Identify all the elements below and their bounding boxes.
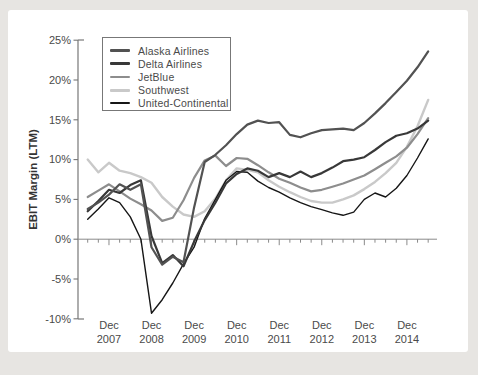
y-tick-label: -5% <box>51 273 71 285</box>
y-tick-label: 25% <box>49 34 71 46</box>
y-tick-label: 10% <box>49 153 71 165</box>
legend-item-alaska-airlines: Alaska Airlines <box>110 44 226 57</box>
x-tick-label-month: Dec <box>142 319 162 331</box>
y-tick-label: 20% <box>49 74 71 86</box>
legend-swatch <box>110 89 130 92</box>
x-tick-label-year: 2014 <box>395 333 419 345</box>
ebit-margin-line-chart: 25%20%15%10%5%0%-5%-10%Dec2007Dec2008Dec… <box>0 0 478 375</box>
x-tick-label-year: 2011 <box>267 333 291 345</box>
x-tick-label-year: 2013 <box>352 333 376 345</box>
figure-page: 25%20%15%10%5%0%-5%-10%Dec2007Dec2008Dec… <box>0 0 478 375</box>
series-line-jetblue <box>88 118 429 221</box>
x-tick-label-month: Dec <box>184 319 204 331</box>
x-tick-label-month: Dec <box>269 319 289 331</box>
legend-swatch <box>110 76 130 79</box>
legend-label: United-Continental <box>138 97 229 109</box>
x-tick-label-month: Dec <box>397 319 417 331</box>
legend-label: Delta Airlines <box>138 58 202 70</box>
x-tick-label-year: 2010 <box>224 333 248 345</box>
legend-item-jetblue: JetBlue <box>110 70 226 83</box>
y-tick-label: -10% <box>45 313 71 325</box>
y-tick-label: 5% <box>55 193 71 205</box>
legend-swatch <box>110 62 130 65</box>
legend-swatch <box>110 102 130 104</box>
x-tick-label-year: 2009 <box>182 333 206 345</box>
legend-label: JetBlue <box>138 71 174 83</box>
x-tick-label-year: 2012 <box>310 333 334 345</box>
y-axis-title: EBIT Margin (LTM) <box>27 129 39 230</box>
x-tick-label-month: Dec <box>312 319 332 331</box>
legend-item-southwest: Southwest <box>110 84 226 97</box>
x-tick-label-month: Dec <box>99 319 119 331</box>
x-tick-label-year: 2007 <box>97 333 121 345</box>
legend-label: Southwest <box>138 84 189 96</box>
legend-label: Alaska Airlines <box>138 45 209 57</box>
x-tick-label-month: Dec <box>355 319 375 331</box>
y-tick-label: 0% <box>55 233 71 245</box>
legend-swatch <box>110 49 130 52</box>
x-tick-label-year: 2008 <box>139 333 163 345</box>
series-line-southwest <box>88 100 429 217</box>
legend-item-delta-airlines: Delta Airlines <box>110 57 226 70</box>
y-tick-label: 15% <box>49 114 71 126</box>
chart-legend: Alaska AirlinesDelta AirlinesJetBlueSout… <box>102 37 231 111</box>
legend-item-united-continental: United-Continental <box>110 97 226 110</box>
x-tick-label-month: Dec <box>227 319 247 331</box>
